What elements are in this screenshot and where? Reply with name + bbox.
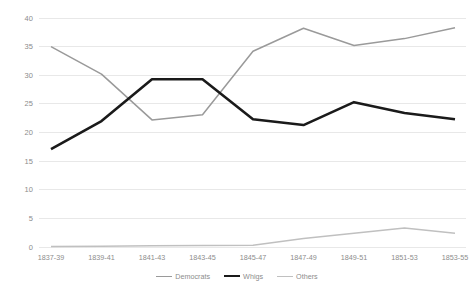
x-axis-tick-label: 1839-41	[74, 253, 130, 262]
legend-swatch-icon	[156, 276, 172, 277]
y-axis-tick-label: 35	[13, 42, 33, 51]
x-axis-tick-label: 1841-43	[124, 253, 180, 262]
legend-label: Democrats	[175, 272, 210, 281]
x-axis-tick-label: 1853-55	[427, 253, 474, 262]
legend-item-whigs[interactable]: Whigs	[224, 272, 263, 281]
chart-legend: DemocratsWhigsOthers	[0, 269, 474, 283]
y-axis-tick-label: 15	[13, 157, 33, 166]
x-axis-tick-label: 1849-51	[326, 253, 382, 262]
x-axis-tick-label: 1837-39	[23, 253, 79, 262]
y-axis-tick-label: 20	[13, 128, 33, 137]
x-axis-tick-label: 1847-49	[276, 253, 332, 262]
legend-item-democrats[interactable]: Democrats	[156, 272, 210, 281]
legend-item-others[interactable]: Others	[277, 272, 318, 281]
series-lines	[51, 28, 455, 247]
series-line-whigs	[51, 79, 455, 149]
x-axis-tick-label: 1851-53	[377, 253, 433, 262]
series-line-democrats	[51, 28, 455, 120]
y-axis-tick-label: 40	[13, 14, 33, 23]
y-axis-tick-label: 5	[13, 214, 33, 223]
y-axis-tick-label: 30	[13, 71, 33, 80]
legend-swatch-icon	[224, 275, 240, 277]
legend-swatch-icon	[277, 276, 293, 277]
chart-plot-area	[0, 0, 474, 292]
legend-label: Whigs	[243, 272, 263, 281]
y-axis-tick-label: 25	[13, 99, 33, 108]
x-axis-tick-label: 1843-45	[175, 253, 231, 262]
y-axis-tick-label: 0	[13, 243, 33, 252]
line-chart: 0510152025303540 1837-391839-411841-4318…	[0, 0, 474, 292]
legend-label: Others	[296, 272, 318, 281]
x-axis-tick-label: 1845-47	[225, 253, 281, 262]
y-axis-tick-label: 10	[13, 185, 33, 194]
series-line-others	[51, 228, 455, 246]
